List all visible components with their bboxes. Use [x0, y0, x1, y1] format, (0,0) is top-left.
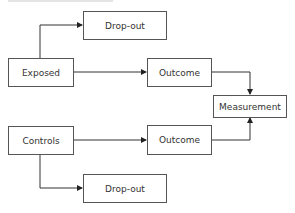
- node-label: Outcome: [159, 68, 200, 78]
- node-label: Exposed: [22, 68, 60, 78]
- node-exposed: Exposed: [8, 58, 74, 87]
- node-outcome-bottom: Outcome: [147, 125, 212, 155]
- flow-diagram: Drop-out Exposed Outcome Measurement Con…: [0, 0, 295, 213]
- node-dropout-top: Drop-out: [83, 11, 167, 40]
- node-label: Drop-out: [105, 184, 145, 194]
- node-dropout-bottom: Drop-out: [83, 174, 167, 203]
- edge-outcome-top-measurement: [211, 72, 250, 94]
- node-label: Measurement: [219, 102, 281, 112]
- node-label: Controls: [22, 136, 59, 146]
- node-outcome-top: Outcome: [147, 58, 212, 87]
- node-label: Outcome: [159, 135, 200, 145]
- edge-outcome-bottom-measurement: [211, 118, 250, 140]
- node-controls: Controls: [8, 126, 74, 155]
- edge-exposed-dropout: [40, 25, 82, 59]
- node-label: Drop-out: [105, 21, 145, 31]
- edge-controls-dropout: [40, 154, 82, 188]
- node-measurement: Measurement: [213, 95, 287, 118]
